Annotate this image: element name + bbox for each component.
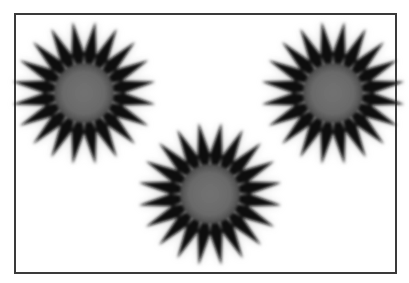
stars-layer [13, 22, 404, 265]
star-core [180, 164, 240, 224]
star-bottom-center [139, 123, 281, 265]
star-core [54, 63, 114, 123]
starburst-canvas [0, 0, 409, 283]
star-core [303, 63, 363, 123]
star-top-left [13, 22, 155, 164]
star-top-right [262, 22, 404, 164]
